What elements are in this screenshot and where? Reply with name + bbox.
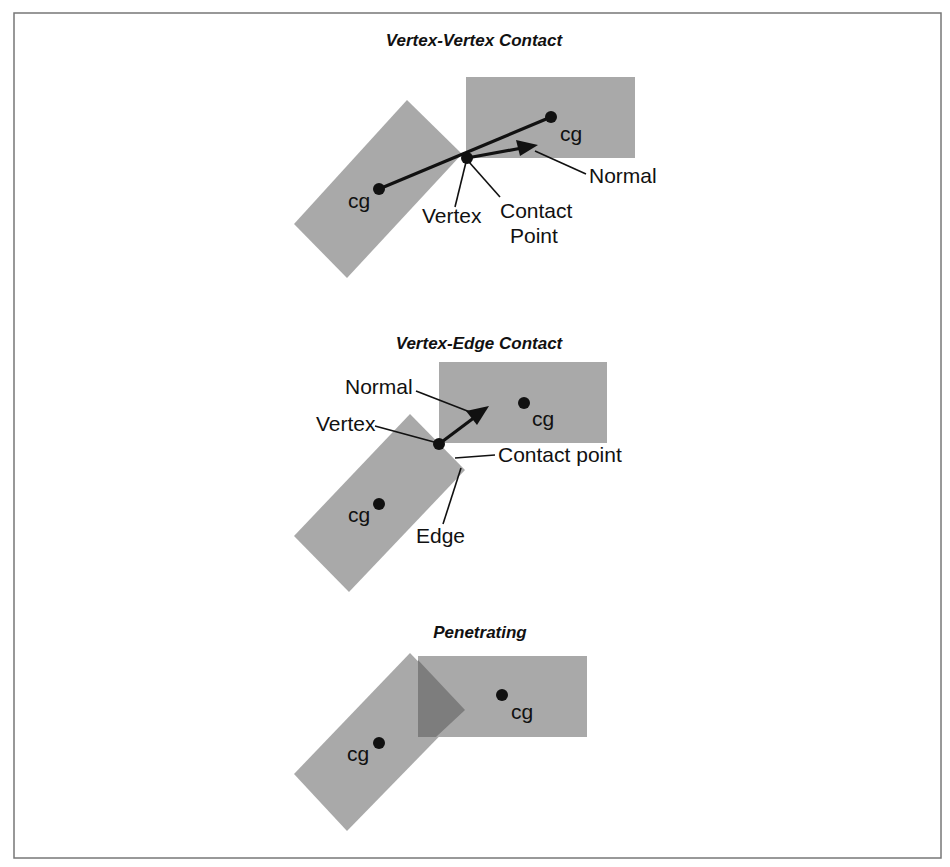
cg-left-dot: [373, 183, 385, 195]
vertex-dot: [433, 438, 445, 450]
vertex-label: Vertex: [316, 412, 376, 435]
vertex-label: Vertex: [422, 204, 482, 227]
panel-title: Vertex-Edge Contact: [396, 334, 564, 353]
normal-label: Normal: [589, 164, 657, 187]
panel-penetrating: Penetrating cg cg: [294, 623, 587, 831]
contact-point-leader: [455, 455, 495, 458]
cg-right-dot: [496, 689, 508, 701]
normal-label: Normal: [345, 375, 413, 398]
contact-point-dot: [461, 152, 473, 164]
cg-left-dot: [373, 498, 385, 510]
contact-point-label: Contact point: [498, 443, 622, 466]
cg-right-label: cg: [511, 700, 533, 723]
contact-point-label-line2: Point: [510, 224, 558, 247]
panel-vertex-edge: Vertex-Edge Contact Normal Vertex cg Con…: [294, 334, 622, 592]
panel-title: Vertex-Vertex Contact: [386, 31, 564, 50]
cg-right-dot: [518, 397, 530, 409]
cg-right-dot: [545, 111, 557, 123]
cg-right-label: cg: [532, 407, 554, 430]
contact-point-leader: [469, 162, 500, 197]
edge-label: Edge: [416, 524, 465, 547]
contact-diagram: Vertex-Vertex Contact cg cg Vertex Conta…: [0, 0, 950, 867]
contact-point-label-line1: Contact: [500, 199, 573, 222]
cg-right-label: cg: [560, 122, 582, 145]
cg-left-label: cg: [347, 742, 369, 765]
cg-left-dot: [373, 737, 385, 749]
cg-left-label: cg: [348, 503, 370, 526]
panel-title: Penetrating: [433, 623, 527, 642]
panel-vertex-vertex: Vertex-Vertex Contact cg cg Vertex Conta…: [294, 31, 657, 278]
cg-left-label: cg: [348, 189, 370, 212]
vertex-leader: [455, 162, 466, 207]
